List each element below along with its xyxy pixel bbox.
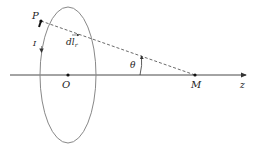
loop-field-diagram: P O M z θ I dlr bbox=[0, 0, 255, 151]
label-theta: θ bbox=[130, 60, 136, 70]
label-z: z bbox=[239, 80, 245, 90]
label-O: O bbox=[62, 79, 70, 90]
label-dl-r: dlr bbox=[66, 35, 79, 48]
label-I: I bbox=[32, 39, 37, 48]
point-P bbox=[39, 19, 42, 22]
p-to-m-line bbox=[41, 21, 195, 75]
label-M: M bbox=[190, 79, 202, 90]
theta-arc bbox=[140, 56, 142, 75]
svg-text:dlr: dlr bbox=[66, 37, 79, 48]
label-P: P bbox=[31, 10, 39, 21]
point-O bbox=[66, 73, 69, 76]
point-M bbox=[193, 73, 196, 76]
